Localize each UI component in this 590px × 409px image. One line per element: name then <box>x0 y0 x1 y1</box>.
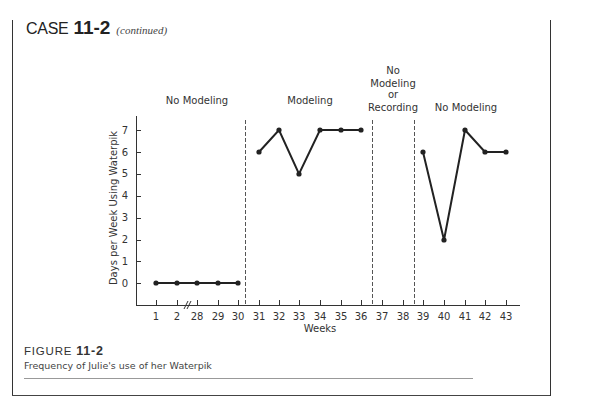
data-point <box>194 280 199 285</box>
data-point <box>420 149 425 154</box>
x-tick-label: 32 <box>273 311 286 322</box>
figure-label: FIGURE 11-2 <box>24 344 104 358</box>
data-points <box>153 127 508 285</box>
figure-word: FIGURE <box>24 345 72 357</box>
data-point <box>441 237 446 242</box>
data-point <box>276 127 281 132</box>
y-tick-label: 6 <box>122 147 128 158</box>
x-tick-label: 31 <box>253 311 266 322</box>
x-tick-label: 42 <box>479 311 492 322</box>
y-axis-label: Days per Week Using Waterpik <box>108 131 119 285</box>
data-point <box>174 280 179 285</box>
series-modeling-line <box>259 130 361 174</box>
data-point <box>235 280 240 285</box>
y-tick-label: 5 <box>122 168 128 179</box>
y-tick-label: 7 <box>122 125 128 136</box>
data-point <box>215 280 220 285</box>
x-tick-label: 28 <box>191 311 204 322</box>
phase-label-no-modeling-return: No Modeling <box>435 102 497 113</box>
x-tick-label: 36 <box>355 311 368 322</box>
data-point <box>296 171 301 176</box>
figure-caption: Frequency of Julie's use of her Waterpik <box>24 360 212 371</box>
x-tick-label: 1 <box>153 311 159 322</box>
data-point <box>338 127 343 132</box>
x-axis-ticks <box>157 300 507 305</box>
phase-label-no-modeling-or-recording-4: Recording <box>368 102 418 113</box>
x-tick-label: 30 <box>232 311 245 322</box>
x-tick-labels: 1 2 28 29 30 31 32 33 34 35 36 37 38 39 … <box>153 311 513 322</box>
data-point <box>462 127 467 132</box>
data-point <box>503 149 508 154</box>
x-tick-label: 43 <box>500 311 513 322</box>
x-tick-label: 39 <box>417 311 430 322</box>
x-tick-label: 33 <box>293 311 306 322</box>
x-tick-label: 35 <box>335 311 348 322</box>
data-point <box>358 127 363 132</box>
x-tick-label: 29 <box>212 311 225 322</box>
y-tick-label: 0 <box>122 278 128 289</box>
x-tick-label: 2 <box>174 311 180 322</box>
y-tick-label: 3 <box>122 212 128 223</box>
data-point <box>153 280 158 285</box>
x-axis-label: Weeks <box>304 323 337 334</box>
data-point <box>256 149 261 154</box>
x-tick-label: 40 <box>438 311 451 322</box>
data-point <box>317 127 322 132</box>
phase-label-no-modeling-or-recording-1: No <box>386 65 400 76</box>
phase-label-modeling: Modeling <box>287 95 333 106</box>
y-tick-label: 2 <box>122 234 128 245</box>
y-tick-label: 1 <box>122 256 128 267</box>
caption-divider <box>24 378 473 379</box>
x-tick-label: 41 <box>459 311 472 322</box>
phase-label-baseline: No Modeling <box>166 95 228 106</box>
phase-label-no-modeling-or-recording-2: Modeling <box>370 78 416 89</box>
y-tick-label: 4 <box>122 190 128 201</box>
phase-label-no-modeling-or-recording-3: or <box>388 89 399 100</box>
data-point <box>482 149 487 154</box>
series-return-line <box>423 130 506 240</box>
figure-number: 11-2 <box>76 344 104 358</box>
x-tick-label: 37 <box>376 311 389 322</box>
x-tick-label: 38 <box>397 311 410 322</box>
x-tick-label: 34 <box>314 311 327 322</box>
y-tick-labels: 0 1 2 3 4 5 6 7 <box>122 125 128 289</box>
